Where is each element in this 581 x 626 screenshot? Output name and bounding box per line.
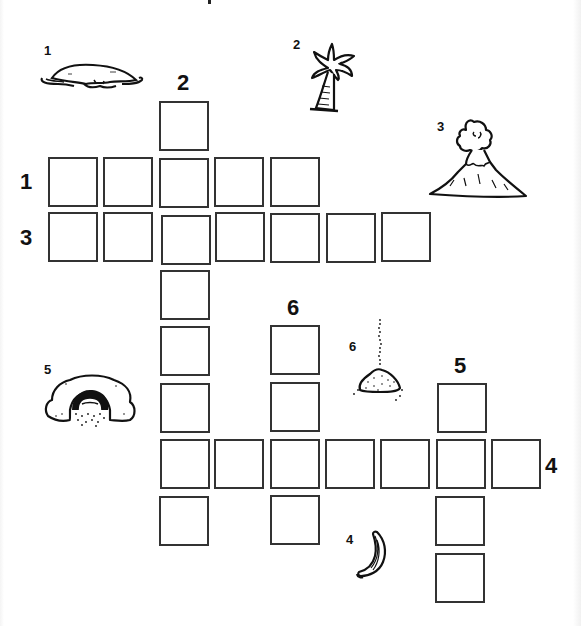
- cell-4across-1-2down-7[interactable]: [160, 439, 210, 489]
- cell-input[interactable]: [163, 217, 209, 263]
- cell-input[interactable]: [50, 159, 96, 205]
- cell-input[interactable]: [161, 103, 207, 149]
- cell-6down-4[interactable]: [270, 495, 320, 545]
- cell-input[interactable]: [382, 441, 428, 487]
- island-icon: [38, 60, 146, 94]
- cell-3across-5[interactable]: [270, 213, 320, 263]
- grid-label-5-down: 5: [454, 355, 466, 377]
- cell-input[interactable]: [272, 215, 318, 261]
- grid-label-4-across: 4: [545, 455, 557, 477]
- cropped-title-fragment: [208, 0, 211, 4]
- cell-input[interactable]: [162, 441, 208, 487]
- cell-input[interactable]: [105, 159, 151, 205]
- cell-2down-8[interactable]: [159, 496, 209, 546]
- cell-input[interactable]: [216, 159, 262, 205]
- cell-input[interactable]: [493, 441, 539, 487]
- cell-input[interactable]: [328, 215, 374, 261]
- cell-input[interactable]: [272, 441, 318, 487]
- cell-input[interactable]: [272, 384, 318, 430]
- cell-2down-1[interactable]: [159, 101, 209, 151]
- cell-4across-6-5down-2[interactable]: [436, 439, 486, 489]
- cell-input[interactable]: [217, 214, 263, 260]
- cave-icon: [42, 370, 138, 428]
- cell-1across-2[interactable]: [103, 157, 153, 207]
- cell-4across-5[interactable]: [380, 439, 430, 489]
- cell-input[interactable]: [272, 497, 318, 543]
- palm-tree-icon: [294, 42, 368, 114]
- cell-2down-4[interactable]: [160, 270, 210, 320]
- cell-4across-2[interactable]: [214, 439, 264, 489]
- cell-4across-4[interactable]: [325, 439, 375, 489]
- crossword-page: 1 2 3 5: [0, 0, 581, 626]
- cell-input[interactable]: [437, 555, 483, 601]
- cell-1across-1[interactable]: [48, 157, 98, 207]
- cell-input[interactable]: [162, 328, 208, 374]
- cell-input[interactable]: [161, 498, 207, 544]
- cell-input[interactable]: [327, 441, 373, 487]
- cell-2down-6[interactable]: [160, 383, 210, 433]
- cell-input[interactable]: [438, 441, 484, 487]
- cell-input[interactable]: [216, 441, 262, 487]
- cell-6down-1[interactable]: [270, 325, 320, 375]
- cell-2down-5[interactable]: [160, 326, 210, 376]
- cell-1across-3-2down-2[interactable]: [159, 158, 209, 208]
- cell-input[interactable]: [439, 385, 485, 431]
- volcano-icon: [428, 116, 530, 200]
- grid-label-1-across: 1: [20, 171, 32, 193]
- cell-input[interactable]: [161, 160, 207, 206]
- cell-4across-7[interactable]: [491, 439, 541, 489]
- cell-3across-4[interactable]: [215, 212, 265, 262]
- cell-input[interactable]: [437, 498, 483, 544]
- cell-3across-7[interactable]: [381, 212, 431, 262]
- cell-4across-3-6down-3[interactable]: [270, 439, 320, 489]
- cell-5down-3[interactable]: [435, 496, 485, 546]
- cell-6down-2[interactable]: [270, 382, 320, 432]
- cell-input[interactable]: [162, 272, 208, 318]
- cell-5down-1[interactable]: [437, 383, 487, 433]
- sand-icon: [352, 316, 406, 402]
- cell-3across-3-2down-3[interactable]: [161, 215, 211, 265]
- page-edge-shadow-right: [573, 0, 581, 626]
- cell-input[interactable]: [383, 214, 429, 260]
- cell-input[interactable]: [105, 214, 151, 260]
- cell-5down-4[interactable]: [435, 553, 485, 603]
- cell-3across-2[interactable]: [103, 212, 153, 262]
- cell-3across-6[interactable]: [326, 213, 376, 263]
- cell-input[interactable]: [272, 159, 318, 205]
- cell-1across-4[interactable]: [214, 157, 264, 207]
- cell-input[interactable]: [162, 385, 208, 431]
- cell-input[interactable]: [50, 214, 96, 260]
- grid-label-2-down: 2: [177, 72, 189, 94]
- cell-1across-5[interactable]: [270, 157, 320, 207]
- picture-number-1: 1: [44, 44, 51, 57]
- banana-icon: [355, 530, 395, 580]
- grid-label-3-across: 3: [20, 227, 32, 249]
- picture-number-4: 4: [346, 533, 353, 546]
- cell-3across-1[interactable]: [48, 212, 98, 262]
- cell-input[interactable]: [272, 327, 318, 373]
- page-edge-shadow-left: [0, 0, 4, 626]
- grid-label-6-down: 6: [287, 297, 299, 319]
